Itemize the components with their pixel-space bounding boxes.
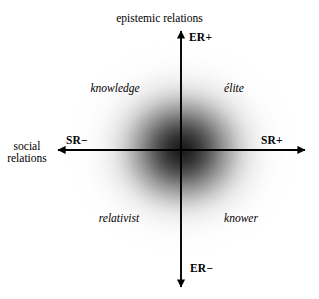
pole-label-sr-minus: SR− <box>66 134 88 146</box>
pole-label-er-plus: ER+ <box>189 31 212 43</box>
social-relations-axis-title: social relations <box>0 140 54 165</box>
quadrant-label-knowledge: knowledge <box>73 82 157 94</box>
quadrant-label-knower: knower <box>208 212 274 224</box>
quadrant-label-relativist: relativist <box>80 212 158 224</box>
specialization-plane-diagram: epistemic relations social relations ER+… <box>0 0 319 299</box>
pole-label-er-minus: ER− <box>190 262 213 274</box>
quadrant-label-elite: élite <box>204 82 264 94</box>
epistemic-relations-axis-title: epistemic relations <box>0 12 319 24</box>
social-relations-title-line1: social <box>0 140 54 152</box>
pole-label-sr-plus: SR+ <box>261 134 283 146</box>
social-relations-title-line2: relations <box>0 152 54 164</box>
